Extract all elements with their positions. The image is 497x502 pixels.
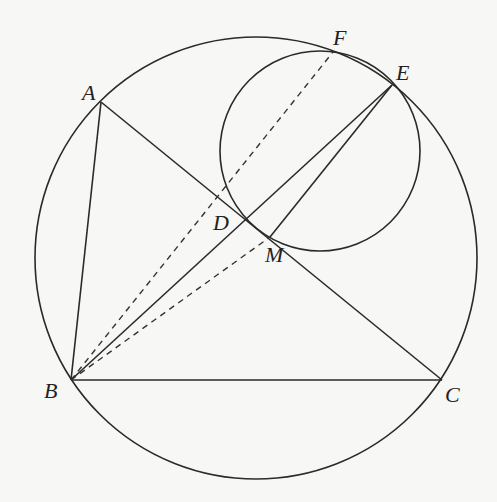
segment-em	[270, 85, 392, 237]
dashed-segment-bm	[71, 237, 270, 380]
label-m: M	[264, 242, 285, 267]
dashed-segment-bf	[71, 52, 333, 380]
geometry-diagram: A B C D E F M	[0, 0, 497, 502]
label-e: E	[395, 60, 410, 85]
label-c: C	[445, 382, 460, 407]
label-d: D	[212, 210, 229, 235]
segment-ac	[101, 102, 442, 380]
label-a: A	[80, 80, 96, 105]
label-b: B	[44, 378, 57, 403]
segment-be	[71, 85, 392, 380]
label-f: F	[332, 25, 347, 50]
segment-ab	[71, 102, 101, 380]
